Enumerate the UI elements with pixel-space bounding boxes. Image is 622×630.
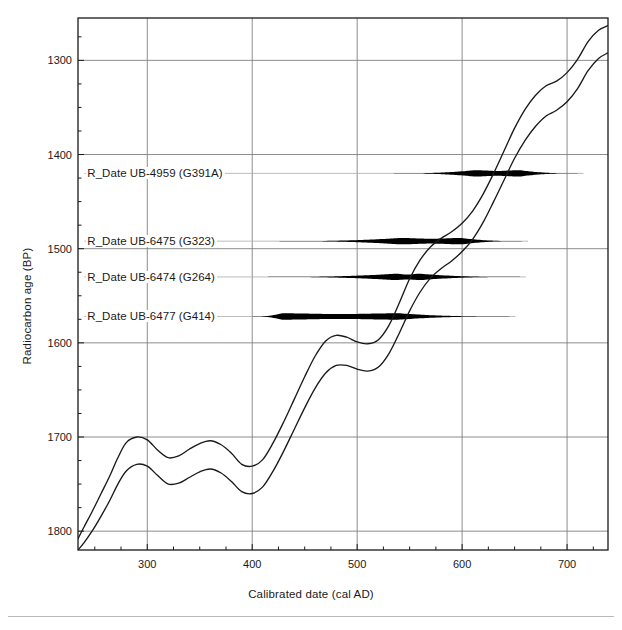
distribution-label-ub-6475: R_Date UB-6475 (G323) [86, 235, 217, 247]
y-tick-label: 1700 [28, 431, 72, 443]
x-tick-label: 300 [138, 558, 156, 570]
distribution-label-ub-4959: R_Date UB-4959 (G391A) [86, 167, 224, 179]
plot-background [78, 18, 608, 550]
y-tick-label: 1600 [28, 337, 72, 349]
y-tick-label: 1400 [28, 149, 72, 161]
x-tick-label: 400 [243, 558, 261, 570]
distribution-label-ub-6477: R_Date UB-6477 (G414) [86, 310, 217, 322]
distribution-label-ub-6474: R_Date UB-6474 (G264) [86, 271, 217, 283]
x-tick-label: 700 [558, 558, 576, 570]
x-tick-label: 500 [348, 558, 366, 570]
radiocarbon-calibration-figure: Radiocarbon age (BP) Calibrated date (ca… [0, 0, 622, 630]
y-tick-label: 1800 [28, 525, 72, 537]
x-tick-label: 600 [453, 558, 471, 570]
footer-divider [8, 616, 614, 617]
x-axis-title: Calibrated date (cal AD) [0, 588, 622, 600]
y-tick-label: 1300 [28, 54, 72, 66]
y-tick-label: 1500 [28, 243, 72, 255]
